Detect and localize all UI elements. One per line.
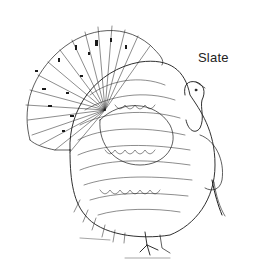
illustration-canvas: Slate (0, 0, 253, 278)
head (185, 82, 204, 132)
body (70, 61, 215, 237)
wing (100, 106, 173, 165)
turkey-illustration (0, 0, 253, 278)
leg (140, 232, 158, 255)
breed-label: Slate (198, 50, 229, 65)
